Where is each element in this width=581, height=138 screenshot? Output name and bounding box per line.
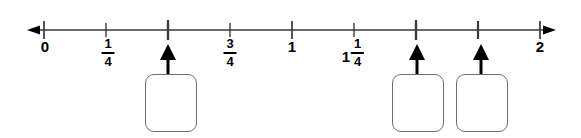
pointer-arrow-3-icon [473,44,489,74]
tick-label-2: 2 [536,39,544,54]
fraction-numerator: 3 [224,37,235,52]
fraction-denominator: 4 [224,54,235,69]
tick-label-0: 0 [41,39,49,54]
number-line-figure: 0 1 2 1 4 3 4 1 1 4 [0,0,581,138]
fraction-denominator: 4 [352,54,363,69]
axis-right-arrowhead-icon [543,26,556,35]
tick-label-three-quarters: 3 4 [224,37,237,68]
fraction-one-quarter: 1 4 [351,37,364,68]
fraction-three-quarters: 3 4 [224,37,237,68]
tick-label-one-quarter: 1 4 [102,37,115,68]
pointer-arrow-2-icon [409,44,425,74]
answer-box-3[interactable] [456,74,508,132]
pointer-arrow-1-icon [160,44,176,74]
fraction-one-quarter: 1 4 [102,37,115,68]
mixed-number-whole: 1 [342,42,350,64]
fraction-numerator: 1 [102,37,113,52]
answer-box-1[interactable] [145,74,197,132]
axis-left-arrowhead-icon [27,26,40,35]
fraction-numerator: 1 [352,37,363,52]
fraction-denominator: 4 [102,54,113,69]
tick-label-1: 1 [288,39,296,54]
answer-box-2[interactable] [392,74,444,132]
tick-label-one-and-one-quarter: 1 1 4 [342,37,364,68]
